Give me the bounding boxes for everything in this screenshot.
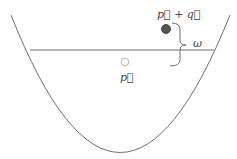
brace-icon	[170, 23, 186, 66]
label-p: p⃗	[120, 71, 134, 84]
filled-point-p-plus-q	[162, 25, 171, 34]
label-omega: ω	[193, 37, 202, 50]
diagram-canvas: p⃗ + q⃗ p⃗ ω	[0, 0, 237, 159]
open-point-p	[121, 58, 129, 66]
label-p-plus-q: p⃗ + q⃗	[157, 8, 201, 21]
